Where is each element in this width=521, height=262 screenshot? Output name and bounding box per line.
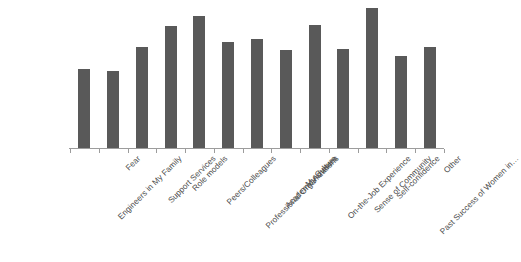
- x-axis-line: [69, 148, 444, 149]
- axis-tick: [214, 149, 215, 153]
- axis-tick: [70, 149, 71, 153]
- axis-tick: [243, 149, 244, 153]
- bar-slot: [128, 8, 157, 149]
- bar-slot: [329, 8, 358, 149]
- plot-area: [70, 8, 444, 149]
- bar[interactable]: [78, 69, 90, 149]
- bar[interactable]: [424, 47, 436, 149]
- bar[interactable]: [366, 8, 378, 149]
- bar-slot: [300, 8, 329, 149]
- axis-tick: [358, 149, 359, 153]
- category-label: Peers/Colleagues: [225, 154, 278, 207]
- bar[interactable]: [395, 56, 407, 149]
- bar[interactable]: [136, 47, 148, 149]
- bar-slot: [185, 8, 214, 149]
- bar-slot: [70, 8, 99, 149]
- bar-slot: [386, 8, 415, 149]
- axis-tick: [156, 149, 157, 153]
- bar-slot: [415, 8, 444, 149]
- bar[interactable]: [107, 71, 119, 149]
- bar[interactable]: [222, 42, 234, 149]
- axis-tick: [329, 149, 330, 153]
- axis-tick: [99, 149, 100, 153]
- bar-slot: [243, 8, 272, 149]
- bar-slot: [99, 8, 128, 149]
- bar[interactable]: [251, 39, 263, 149]
- axis-tick: [128, 149, 129, 153]
- bar[interactable]: [280, 50, 292, 149]
- category-label: Other: [442, 154, 463, 175]
- bar-slot: [156, 8, 185, 149]
- axis-tick: [386, 149, 387, 153]
- axis-tick: [271, 149, 272, 153]
- bar-slot: [358, 8, 387, 149]
- category-label: Fear: [124, 154, 142, 172]
- axis-tick: [300, 149, 301, 153]
- bar[interactable]: [337, 49, 349, 149]
- axis-tick: [444, 149, 445, 153]
- bar[interactable]: [165, 26, 177, 149]
- bar-slot: [271, 8, 300, 149]
- axis-tick: [185, 149, 186, 153]
- bar[interactable]: [193, 16, 205, 149]
- axis-tick: [415, 149, 416, 153]
- bar[interactable]: [309, 25, 321, 149]
- category-label: My Culture: [304, 154, 339, 189]
- bar-slot: [214, 8, 243, 149]
